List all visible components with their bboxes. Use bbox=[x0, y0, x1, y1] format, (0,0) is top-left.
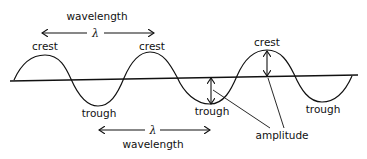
wavelength-label-bottom: wavelength bbox=[122, 138, 183, 150]
wavelength-label-top: wavelength bbox=[66, 10, 127, 22]
lambda-symbol-bottom: λ bbox=[149, 124, 157, 137]
crest-label-1: crest bbox=[32, 40, 58, 52]
crest-label-3: crest bbox=[254, 36, 280, 48]
lambda-symbol-top: λ bbox=[91, 27, 99, 40]
equilibrium-line bbox=[10, 75, 358, 81]
wave-diagram: λ wavelength crest crest crest trough tr… bbox=[0, 0, 367, 159]
amplitude-label: amplitude bbox=[255, 129, 308, 141]
crest-label-2: crest bbox=[139, 40, 165, 52]
amplitude-leader-2 bbox=[268, 78, 284, 128]
trough-label-3: trough bbox=[306, 103, 341, 115]
trough-label-1: trough bbox=[82, 107, 117, 119]
trough-label-2: trough bbox=[195, 105, 230, 117]
